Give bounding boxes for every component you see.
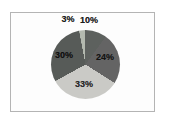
pie-label-10pct: 10% [80, 15, 98, 25]
pie-label-30pct: 30% [55, 50, 73, 60]
pie-label-24pct: 24% [96, 52, 114, 62]
pie-label-3pct: 3% [61, 14, 74, 24]
scanned-pie-chart-figure: 10%24%33%30%3% [0, 0, 169, 123]
pie-label-33pct: 33% [75, 79, 93, 89]
